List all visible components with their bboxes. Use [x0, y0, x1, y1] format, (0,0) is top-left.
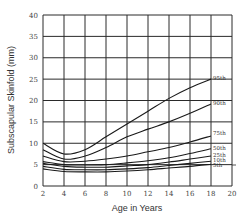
y-tick-label: 15 — [29, 118, 38, 126]
percentile-label-50th: 50th — [213, 145, 226, 151]
y-tick-label: 20 — [29, 97, 38, 105]
y-tick-label: 40 — [29, 12, 38, 20]
y-tick-label: 25 — [29, 76, 38, 84]
grid — [43, 15, 236, 186]
y-axis-ticks: 0510152025303540 — [29, 12, 38, 191]
y-tick-label: 30 — [29, 54, 38, 62]
y-tick-label: 5 — [34, 161, 38, 169]
y-tick-label: 35 — [29, 33, 38, 41]
x-tick-label: 8 — [104, 190, 108, 198]
growth-chart: 0510152025303540 2468101214161820 95th90… — [0, 0, 249, 223]
x-tick-label: 4 — [62, 190, 67, 198]
y-tick-label: 0 — [34, 183, 38, 191]
x-tick-label: 2 — [41, 190, 45, 198]
x-tick-label: 6 — [83, 190, 88, 198]
percentile-label-90th: 90th — [213, 100, 226, 106]
x-tick-label: 18 — [207, 190, 216, 198]
x-tick-label: 20 — [228, 190, 237, 198]
x-tick-label: 14 — [165, 190, 174, 198]
percentile-label-75th: 75th — [213, 130, 226, 136]
x-axis-ticks: 2468101214161820 — [41, 190, 237, 198]
x-axis-title: Age in Years — [112, 203, 163, 213]
x-tick-label: 10 — [123, 190, 132, 198]
x-tick-label: 16 — [186, 190, 195, 198]
percentile-label-95th: 95th — [213, 75, 226, 81]
y-axis-title: Subscapular Skinfold (mm) — [6, 46, 16, 154]
y-tick-label: 10 — [29, 140, 38, 148]
x-tick-label: 12 — [144, 190, 153, 198]
percentile-label-5th: 5th — [213, 162, 223, 168]
